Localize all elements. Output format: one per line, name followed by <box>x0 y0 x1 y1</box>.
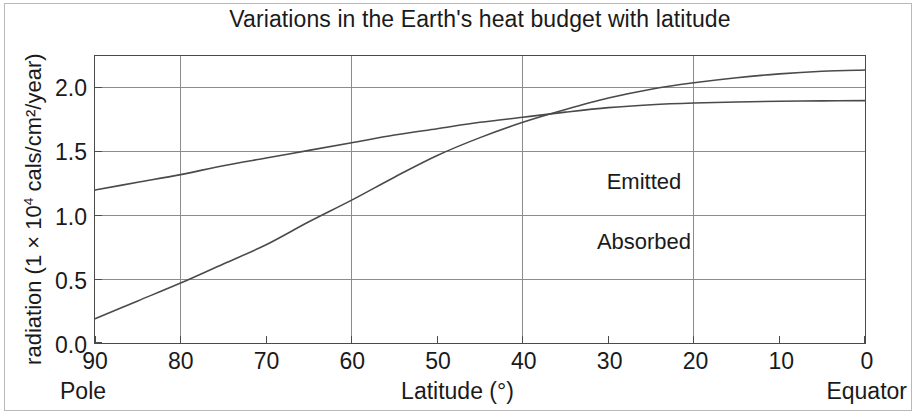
y-axis-tick-label: 0.5 <box>55 267 87 294</box>
curve-label-emitted: Emitted <box>607 169 682 195</box>
y-axis-title-exponent: 4 <box>21 198 36 206</box>
plot-area: 0.00.51.01.52.09080706050403020100Emitte… <box>94 55 866 344</box>
plot-inner: 0.00.51.01.52.09080706050403020100Emitte… <box>95 56 865 343</box>
y-axis-tick-label: 2.0 <box>55 75 87 102</box>
x-axis-tick-label: 80 <box>168 348 194 375</box>
y-axis-title-prefix: radiation (1 × 10 <box>21 205 46 365</box>
x-axis-tick-label: 0 <box>861 348 874 375</box>
data-curve-emitted <box>95 101 865 190</box>
x-axis-title: Latitude (°) <box>0 378 915 405</box>
curve-label-absorbed: Absorbed <box>597 229 691 255</box>
x-axis-caption-equator: Equator <box>826 378 907 405</box>
y-axis-title-suffix: cals/cm²/year) <box>21 53 46 197</box>
y-axis-title: radiation (1 × 104 cals/cm²/year) <box>21 29 47 389</box>
x-axis-tick-label: 30 <box>597 348 623 375</box>
heat-budget-chart-figure: Variations in the Earth's heat budget wi… <box>0 0 915 418</box>
chart-title: Variations in the Earth's heat budget wi… <box>94 6 866 33</box>
x-axis-tick-label: 50 <box>425 348 451 375</box>
y-axis-tick-label: 1.0 <box>55 203 87 230</box>
x-axis-tick-label: 90 <box>82 348 108 375</box>
data-curve-absorbed <box>95 70 865 319</box>
x-axis-tick-label: 40 <box>511 348 537 375</box>
data-curves <box>95 56 865 343</box>
x-axis-tick-label: 60 <box>340 348 366 375</box>
x-axis-tick-label: 70 <box>254 348 280 375</box>
x-axis-tick-label: 10 <box>768 348 794 375</box>
y-axis-tick-label: 1.5 <box>55 139 87 166</box>
x-axis-tick-label: 20 <box>683 348 709 375</box>
